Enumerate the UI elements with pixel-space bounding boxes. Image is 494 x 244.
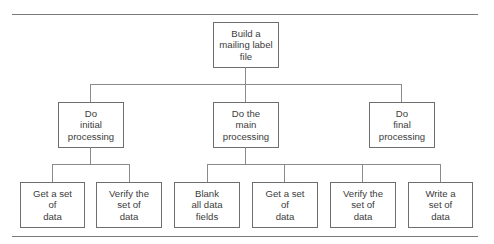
node-blank-fields: Blank all data fields xyxy=(174,182,240,228)
node-verify-data-main: Verify the set of data xyxy=(330,182,396,228)
connector xyxy=(440,164,441,182)
connector xyxy=(52,164,130,165)
node-label: Verify the set of data xyxy=(343,188,383,223)
node-get-data-initial: Get a set of data xyxy=(20,182,85,228)
connector xyxy=(90,84,402,85)
connector xyxy=(245,67,246,85)
node-write-data: Write a set of data xyxy=(408,182,473,228)
node-label: Verify the set of data xyxy=(109,188,149,223)
connector xyxy=(245,84,246,102)
node-initial-processing: Do initial processing xyxy=(58,102,124,148)
connector xyxy=(362,164,363,182)
connector xyxy=(207,164,441,165)
node-get-data-main: Get a set of data xyxy=(252,182,318,228)
node-verify-data-initial: Verify the set of data xyxy=(96,182,162,228)
node-label: Do the main processing xyxy=(223,108,269,143)
node-final-processing: Do final processing xyxy=(369,102,435,148)
node-label: Build a mailing label file xyxy=(219,28,272,63)
node-label: Write a set of data xyxy=(425,188,455,223)
connector xyxy=(207,164,208,182)
node-main-processing: Do the main processing xyxy=(213,102,279,148)
node-root: Build a mailing label file xyxy=(213,22,279,68)
connector xyxy=(90,147,91,165)
node-label: Blank all data fields xyxy=(192,188,223,223)
connector xyxy=(245,147,246,165)
connector xyxy=(284,164,285,182)
top-rule xyxy=(12,14,478,15)
connector xyxy=(52,164,53,182)
connector xyxy=(90,84,91,102)
connector xyxy=(401,84,402,102)
node-label: Do final processing xyxy=(379,108,425,143)
node-label: Get a set of data xyxy=(266,188,305,223)
node-label: Get a set of data xyxy=(33,188,72,223)
node-label: Do initial processing xyxy=(68,108,114,143)
connector xyxy=(129,164,130,182)
bottom-rule xyxy=(12,236,478,237)
